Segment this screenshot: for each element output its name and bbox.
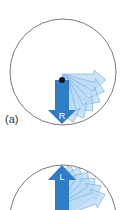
arrow-letter-r: R bbox=[59, 111, 66, 121]
panel-caption-a: (a) bbox=[5, 113, 18, 125]
diagram-canvas: R L bbox=[0, 0, 126, 210]
arrow-letter-l: L bbox=[59, 172, 64, 182]
pivot-dot bbox=[59, 77, 65, 83]
